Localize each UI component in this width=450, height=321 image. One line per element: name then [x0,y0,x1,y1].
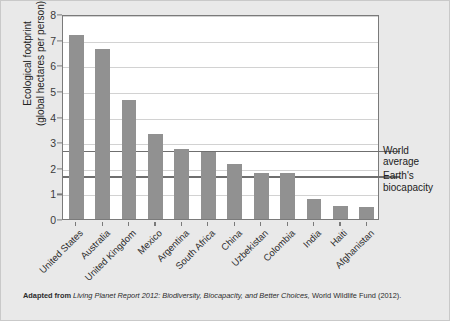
x-tick-mark [313,222,314,226]
bar [201,152,216,219]
x-tick-mark [287,222,288,226]
x-tick-label: Haiti [329,228,349,248]
bar [227,164,242,219]
x-tick-mark [181,222,182,226]
bar [333,206,348,219]
y-tick-label: 3 [50,138,56,149]
x-tick-mark [102,222,103,226]
reference-label-line1: Earth's [383,170,447,182]
reference-label-line1: World [383,145,447,157]
caption-source-title: Living Planet Report 2012: Biodiversity,… [73,291,310,300]
bar [122,100,137,219]
y-tick-label: 5 [50,87,56,98]
reference-line-label: Worldaverage [383,145,447,168]
bar [254,173,269,219]
caption-tail: World Wildlife Fund (2012). [310,291,401,300]
y-tick-label: 0 [50,215,56,226]
y-tick-label: 2 [50,164,56,175]
bar [174,149,189,219]
bar [69,35,84,220]
bar-series [63,16,378,219]
reference-label-line2: biocapacity [383,182,447,194]
bar [359,207,374,219]
x-tick-mark [260,222,261,226]
x-tick-mark [128,222,129,226]
x-tick-mark [366,222,367,226]
y-axis-title-line1: Ecological footprint [22,0,35,149]
y-tick-label: 1 [50,189,56,200]
plot-area [62,15,379,220]
source-caption: Adapted from Living Planet Report 2012: … [23,291,435,301]
y-tick-label: 8 [50,10,56,21]
y-tick-label: 6 [50,61,56,72]
y-tick-label: 7 [50,35,56,46]
figure-container: Ecological footprint (global hectares pe… [0,0,450,321]
caption-lead: Adapted from [23,291,71,300]
y-tick-label: 4 [50,112,56,123]
bar [95,49,110,219]
x-tick-mark [207,222,208,226]
x-tick-mark [234,222,235,226]
x-tick-label: India [301,228,322,249]
bar [148,134,163,219]
x-axis: United StatesAustraliaUnited KingdomMexi… [62,222,379,292]
x-tick-mark [75,222,76,226]
x-tick-label: United States [38,228,85,275]
bar [307,199,322,220]
reference-label-line2: average [383,156,447,168]
x-tick-mark [339,222,340,226]
reference-line-label: Earth'sbiocapacity [383,170,447,193]
bar [280,173,295,219]
x-tick-mark [154,222,155,226]
y-axis: 012345678 [39,15,62,220]
